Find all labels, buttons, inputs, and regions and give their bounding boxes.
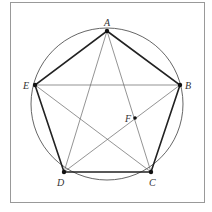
point-f	[133, 116, 137, 120]
label-a: A	[103, 17, 111, 28]
point-a	[105, 29, 109, 33]
label-e: E	[22, 80, 29, 91]
point-d	[62, 170, 66, 174]
circumcircle	[31, 28, 183, 180]
point-e	[33, 83, 37, 87]
label-c: C	[149, 177, 156, 188]
pentagon-diagram: A B C D E F	[0, 0, 212, 212]
label-f: F	[124, 113, 132, 124]
label-d: D	[56, 177, 65, 188]
point-c	[149, 170, 153, 174]
label-b: B	[185, 80, 191, 91]
vertices	[33, 29, 182, 174]
point-b	[178, 83, 182, 87]
